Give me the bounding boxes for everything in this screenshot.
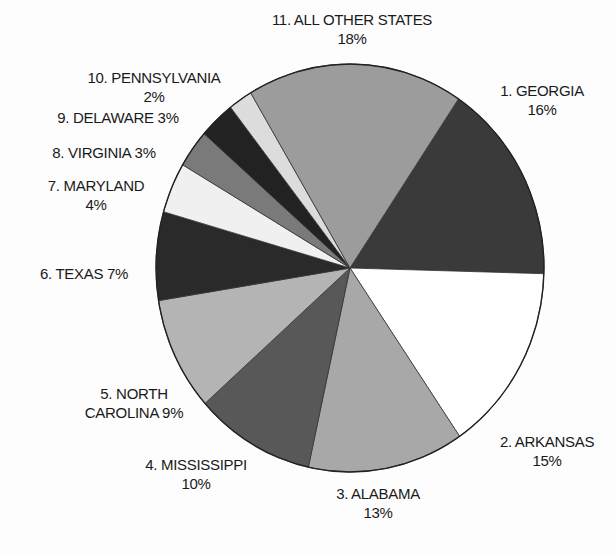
label-name: 6. TEXAS 7% (40, 264, 128, 283)
label-maryland: 7. MARYLAND 4% (48, 176, 144, 214)
label-name: 9. DELAWARE 3% (57, 108, 178, 127)
label-name: 5. NORTH (85, 384, 183, 403)
label-percent: 10% (145, 474, 247, 493)
label-alabama: 3. ALABAMA 13% (336, 484, 420, 522)
label-texas: 6. TEXAS 7% (40, 264, 128, 283)
label-mississippi: 4. MISSISSIPPI 10% (145, 455, 247, 493)
label-percent: 2% (87, 87, 220, 106)
label-name: 8. VIRGINIA 3% (52, 143, 155, 162)
label-percent: 18% (272, 29, 432, 48)
label-georgia: 1. GEORGIA 16% (500, 81, 584, 119)
label-name: 7. MARYLAND (48, 176, 144, 195)
label-name: 4. MISSISSIPPI (145, 455, 247, 474)
label-arkansas: 2. ARKANSAS 15% (500, 432, 594, 470)
label-percent: 4% (48, 195, 144, 214)
label-north-carolina: 5. NORTH CAROLINA 9% (85, 384, 183, 422)
label-name: 11. ALL OTHER STATES (272, 10, 432, 29)
label-percent: CAROLINA 9% (85, 403, 183, 422)
label-delaware: 9. DELAWARE 3% (57, 108, 178, 127)
label-percent: 15% (500, 451, 594, 470)
label-pennsylvania: 10. PENNSYLVANIA 2% (87, 68, 220, 106)
label-all-other-states: 11. ALL OTHER STATES 18% (272, 10, 432, 48)
label-virginia: 8. VIRGINIA 3% (52, 143, 155, 162)
label-percent: 16% (500, 100, 584, 119)
label-name: 3. ALABAMA (336, 484, 420, 503)
label-percent: 13% (336, 503, 420, 522)
label-name: 10. PENNSYLVANIA (87, 68, 220, 87)
label-name: 1. GEORGIA (500, 81, 584, 100)
pie-chart-figure: 11. ALL OTHER STATES 18% 1. GEORGIA 16% … (0, 0, 615, 554)
label-name: 2. ARKANSAS (500, 432, 594, 451)
